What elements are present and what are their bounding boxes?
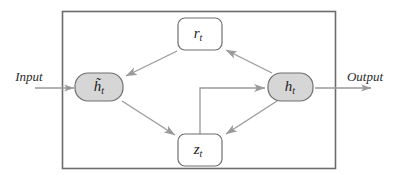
node-r-t[interactable]: rt bbox=[178, 18, 222, 50]
node-h-tilde-t[interactable]: h̃t bbox=[75, 73, 123, 101]
output-label: Output bbox=[347, 69, 384, 84]
input-label: Input bbox=[14, 69, 43, 84]
node-h-t[interactable]: ht bbox=[268, 73, 313, 101]
diagram-canvas: rt h̃t ht zt Input Output bbox=[0, 0, 397, 180]
node-z-t[interactable]: zt bbox=[178, 134, 222, 166]
gru-cell-diagram: rt h̃t ht zt Input Output bbox=[0, 0, 397, 180]
